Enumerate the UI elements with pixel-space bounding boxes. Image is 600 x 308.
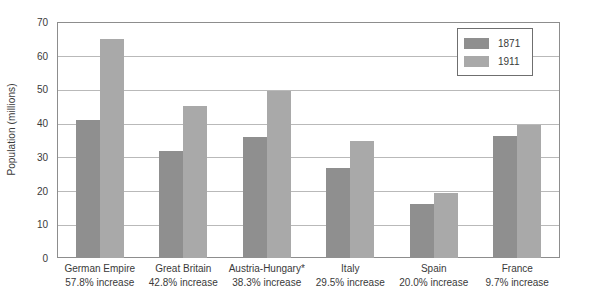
gridline [58, 90, 559, 91]
category-sublabel: 9.7% increase [476, 276, 560, 290]
x-axis-category-labels: German Empire57.8% increaseGreat Britain… [58, 262, 559, 306]
category-sublabel: 38.3% increase [225, 276, 309, 290]
category-sublabel: 20.0% increase [392, 276, 476, 290]
gridline [58, 191, 559, 192]
category-name: Great Britain [142, 262, 226, 276]
legend-item: 1911 [464, 52, 526, 70]
gridline [58, 157, 559, 158]
y-axis-tick-label: 70 [37, 17, 48, 28]
legend-swatch-icon [464, 56, 489, 67]
legend-swatch-icon [464, 38, 489, 49]
y-axis-tick-label: 60 [37, 50, 48, 61]
legend-item-label: 1871 [498, 38, 520, 49]
x-axis-category-label: Spain20.0% increase [392, 262, 476, 290]
legend-item: 1871 [464, 34, 526, 52]
category-name: Austria-Hungary* [225, 262, 309, 276]
x-axis-category-label: Austria-Hungary*38.3% increase [225, 262, 309, 290]
category-name: Spain [392, 262, 476, 276]
category-sublabel: 57.8% increase [58, 276, 142, 290]
legend-item-label: 1911 [498, 56, 520, 67]
x-axis-category-label: German Empire57.8% increase [58, 262, 142, 290]
x-axis-category-label: France9.7% increase [476, 262, 560, 290]
x-axis-category-label: Great Britain42.8% increase [142, 262, 226, 290]
category-name: France [476, 262, 560, 276]
category-sublabel: 42.8% increase [142, 276, 226, 290]
category-sublabel: 29.5% increase [309, 276, 393, 290]
legend: 1871 1911 [457, 28, 533, 76]
category-name: German Empire [58, 262, 142, 276]
x-axis-category-label: Italy29.5% increase [309, 262, 393, 290]
category-name: Italy [309, 262, 393, 276]
y-axis-tick-label: 0 [42, 253, 48, 264]
bar-chart: Population (millions) 010203040506070 Ge… [0, 0, 600, 308]
gridline [58, 124, 559, 125]
y-axis-tick-label: 20 [37, 185, 48, 196]
y-axis-tick-label: 50 [37, 84, 48, 95]
gridline [58, 225, 559, 226]
y-axis-tick-label: 10 [37, 219, 48, 230]
y-axis-title: Population (millions) [0, 0, 22, 258]
y-axis-tick-label: 30 [37, 151, 48, 162]
y-axis-tick-label: 40 [37, 118, 48, 129]
y-axis-tick-labels: 010203040506070 [22, 0, 53, 308]
y-axis-title-text: Population (millions) [6, 83, 17, 175]
